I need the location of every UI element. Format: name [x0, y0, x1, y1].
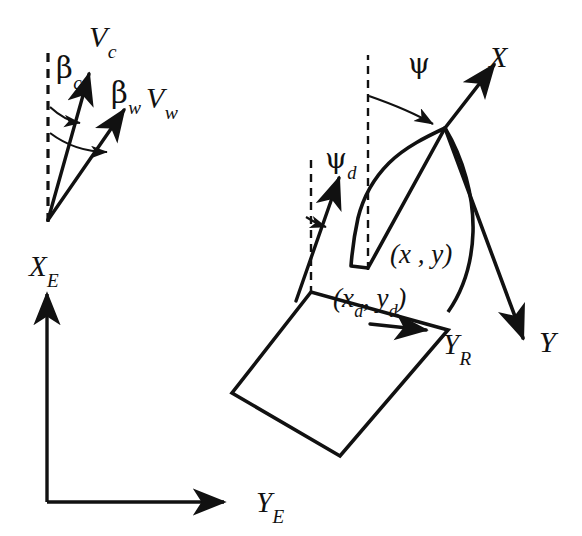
label-x-earth: XE: [29, 252, 58, 286]
label-current-velocity-sub: c: [108, 40, 117, 62]
label-y-rudder: YR: [443, 330, 471, 364]
psi-angle-arc: [369, 96, 433, 124]
label-beta-wind: βw: [111, 79, 141, 113]
wind-vector-arrow: [48, 110, 124, 220]
body-x-axis: [445, 65, 494, 128]
body-y-axis: [445, 128, 523, 338]
label-y-earth-base: Y: [256, 486, 272, 518]
label-y-rudder-sub: R: [460, 348, 472, 369]
label-psi-desired-sub: d: [347, 163, 356, 183]
diagram-canvas: [0, 0, 582, 536]
label-beta-wind-sub: w: [128, 97, 141, 118]
label-position-desired-mid: , y: [363, 283, 388, 313]
label-beta-current-sub: c: [73, 72, 82, 93]
label-position-actual-text: (x , y): [390, 239, 452, 269]
label-x-body-base: X: [489, 40, 507, 73]
rudder-y-axis: [370, 324, 426, 330]
label-y-body: Y: [539, 327, 556, 357]
label-x-body: X: [489, 42, 507, 72]
label-x-earth-sub: E: [47, 270, 59, 291]
label-y-body-base: Y: [539, 325, 556, 358]
label-y-rudder-base: Y: [443, 328, 459, 360]
label-position-desired: (xd, yd): [333, 285, 406, 317]
label-y-earth: YE: [256, 488, 284, 522]
label-psi: ψ: [408, 50, 430, 78]
label-y-earth-sub: E: [273, 506, 285, 527]
label-current-velocity: Vc: [89, 22, 116, 58]
label-x-earth-base: X: [29, 250, 47, 282]
label-psi-base: ψ: [408, 47, 430, 80]
label-wind-velocity-sub: w: [165, 101, 178, 123]
label-current-velocity-base: V: [89, 20, 107, 53]
current-vector-arrow: [48, 74, 89, 220]
rudder-axis-group: [370, 324, 426, 330]
label-psi-desired-base: ψ: [325, 142, 347, 175]
label-psi-desired: ψd: [325, 145, 356, 178]
label-beta-current: βc: [56, 54, 81, 88]
label-position-desired-sub1: d: [354, 301, 363, 321]
label-position-desired-sub2: d: [389, 301, 398, 321]
actual-ship-starboard-curve: [445, 128, 473, 312]
label-beta-wind-base: β: [111, 76, 128, 110]
label-position-actual: (x , y): [390, 241, 452, 268]
diagram-root: Vc βc βw Vw XE YE ψ X ψd (x , y) (xd, yd…: [0, 0, 582, 536]
earth-frame-group: [47, 294, 224, 502]
label-position-desired-open: (x: [333, 283, 354, 313]
label-wind-velocity: Vw: [146, 83, 178, 119]
label-beta-current-base: β: [56, 51, 73, 85]
label-position-desired-close: ): [397, 283, 406, 313]
label-wind-velocity-base: V: [146, 81, 164, 114]
